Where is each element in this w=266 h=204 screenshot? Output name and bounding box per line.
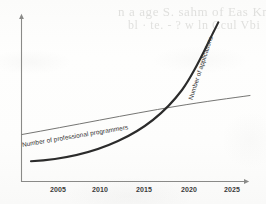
figure-canvas: n a age S. sahm of Eas Kno bl · te. - ? …	[0, 0, 266, 204]
x-tick-label-2010: 2010	[92, 186, 108, 193]
x-tick-label-2025: 2025	[224, 186, 240, 193]
x-tick-label-2005: 2005	[50, 186, 66, 193]
x-tick-label-2020: 2020	[181, 186, 197, 193]
series-line-programmers	[22, 96, 250, 135]
line-chart	[0, 0, 266, 204]
x-tick-label-2015: 2015	[136, 186, 152, 193]
